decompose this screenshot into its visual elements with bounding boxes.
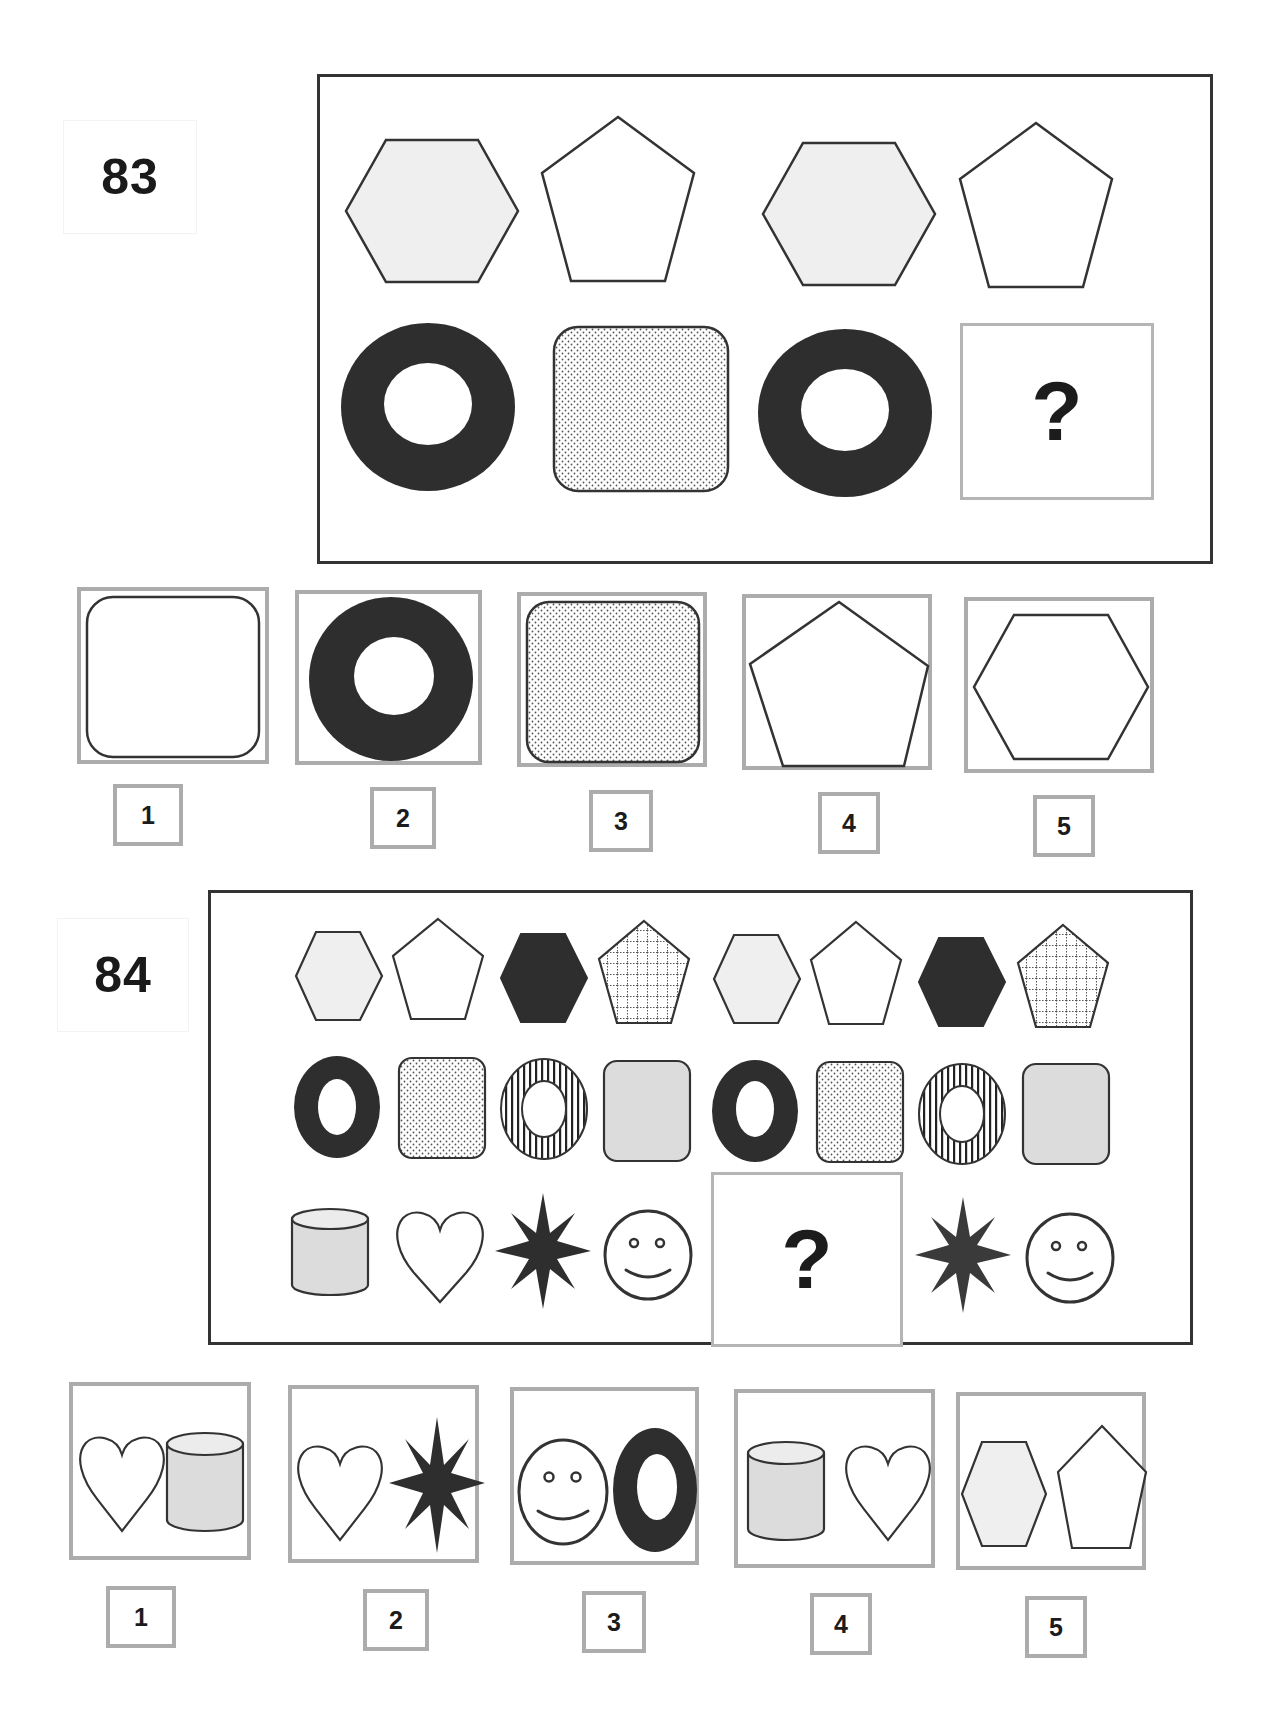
question-mark: ? [781,1211,832,1308]
pentagon-grid-icon [1016,923,1110,1029]
rounded-rect-dotted-icon [397,1056,487,1160]
cylinder-gray-icon [746,1439,826,1543]
hexagon-white-icon [972,613,1150,761]
option-number-84-5[interactable]: 5 [1025,1596,1087,1658]
hexagon-lightgray-icon [960,1440,1048,1548]
option-number-83-4[interactable]: 4 [818,792,880,854]
smiley-face-icon [1024,1211,1116,1305]
hexagon-dark-icon [917,936,1007,1028]
option-number-84-1[interactable]: 1 [106,1586,176,1648]
hexagon-lightgray-icon [344,138,520,284]
ring-dark-icon [612,1427,698,1553]
answer-option-84-5[interactable] [956,1392,1146,1570]
missing-answer-slot-83: ? [960,323,1154,500]
puzzle-number-83: 83 [63,120,197,234]
pentagon-white-icon [391,917,485,1021]
option-number-84-2[interactable]: 2 [363,1589,429,1651]
heart-white-icon [844,1441,932,1545]
cylinder-gray-icon [290,1207,370,1297]
answer-option-84-1[interactable] [69,1382,251,1560]
answer-option-84-4[interactable] [734,1389,935,1568]
hexagon-lightgray-icon [712,933,802,1025]
cylinder-gray-icon [165,1430,245,1534]
option-number-84-4[interactable]: 4 [810,1593,872,1655]
star-dark-icon [389,1417,485,1553]
ring-dark-icon [340,322,516,492]
pentagon-white-icon [1056,1424,1148,1550]
ring-dark-icon [711,1059,799,1163]
hexagon-lightgray-icon [761,141,937,287]
option-number-83-2[interactable]: 2 [370,787,436,849]
missing-answer-slot-84: ? [711,1172,903,1347]
smiley-face-icon [516,1437,610,1547]
answer-option-84-2[interactable] [288,1385,479,1563]
rounded-square-white-icon [85,595,261,759]
hexagon-lightgray-icon [294,930,384,1022]
answer-option-83-2[interactable] [295,590,482,765]
option-number-83-1[interactable]: 1 [113,784,183,846]
pentagon-grid-icon [597,919,691,1025]
rounded-square-dotted-icon [525,600,701,764]
puzzle-number-84: 84 [57,918,189,1032]
heart-white-icon [78,1432,166,1536]
ring-dark-icon [757,328,933,498]
option-number-83-5[interactable]: 5 [1033,795,1095,857]
heart-white-icon [395,1208,485,1304]
rounded-rect-gray-icon [602,1059,692,1163]
answer-option-83-5[interactable] [964,597,1154,773]
star-dark-icon [915,1197,1011,1313]
ring-striped-icon [917,1062,1007,1166]
answer-option-84-3[interactable] [510,1387,699,1565]
answer-option-83-3[interactable] [517,592,707,767]
heart-white-icon [296,1441,384,1545]
pentagon-white-icon [809,920,903,1026]
ring-dark-icon [293,1055,381,1159]
star-dark-icon [495,1193,591,1309]
smiley-face-icon [602,1208,694,1302]
rounded-square-dotted-icon [552,325,730,493]
rounded-rect-dotted-icon [815,1060,905,1164]
answer-option-83-1[interactable] [77,587,269,764]
pentagon-white-icon [958,121,1114,289]
pentagon-white-icon [748,600,930,768]
pentagon-white-icon [540,115,696,283]
hexagon-dark-icon [499,932,589,1024]
answer-option-83-4[interactable] [742,594,932,770]
question-mark: ? [1031,363,1082,460]
ring-striped-icon [499,1057,589,1161]
option-number-84-3[interactable]: 3 [582,1591,646,1653]
ring-dark-icon [308,596,474,762]
rounded-rect-gray-icon [1021,1062,1111,1166]
option-number-83-3[interactable]: 3 [589,790,653,852]
